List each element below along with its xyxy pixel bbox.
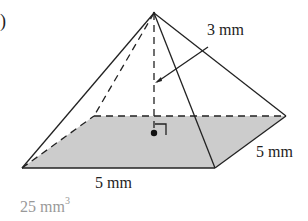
height-label-leader [157, 47, 208, 82]
base-front-label: 5 mm [95, 175, 132, 191]
answer-exponent: 3 [65, 195, 70, 206]
pyramid-diagram [0, 0, 308, 221]
answer-value: 25 mm [20, 198, 65, 215]
hidden-lateral-edge [94, 13, 154, 116]
leader-arrowhead [155, 77, 162, 83]
height-label: 3 mm [207, 22, 244, 38]
apex-point [153, 12, 155, 14]
answer-text: 25 mm3 [20, 199, 70, 215]
base-side-label: 5 mm [256, 144, 293, 160]
height-foot-dot [151, 130, 157, 136]
